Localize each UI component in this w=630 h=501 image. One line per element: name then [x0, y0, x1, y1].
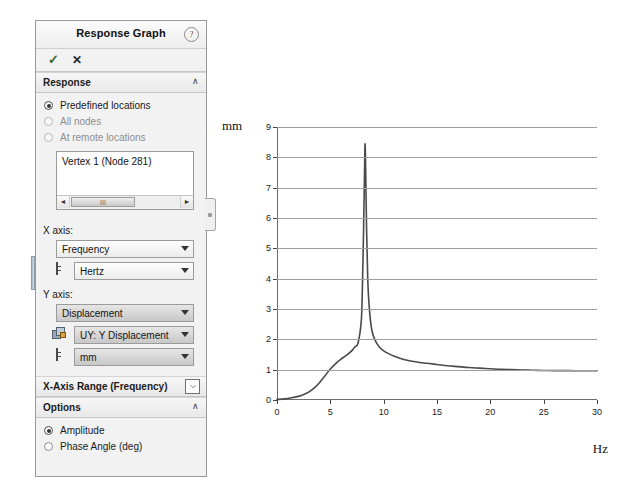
y-tick-mark	[273, 339, 277, 340]
y-tick-mark	[273, 188, 277, 189]
x-tick-label: 15	[432, 407, 442, 417]
y-unit-dropdown[interactable]: mm	[74, 348, 194, 366]
section-header-options[interactable]: Options ∧	[36, 397, 206, 418]
x-tick-label: 5	[328, 407, 333, 417]
radio-label: Predefined locations	[60, 100, 151, 111]
y-tick-label: 9	[266, 122, 271, 132]
y-component-dropdown[interactable]: UY: Y Displacement	[74, 326, 194, 344]
y-tick-mark	[273, 309, 277, 310]
horizontal-scrollbar[interactable]: ◄ III ►	[57, 195, 193, 209]
chevron-down-icon	[181, 332, 189, 337]
y-tick-mark	[273, 370, 277, 371]
y-unit-value: mm	[80, 352, 97, 363]
radio-label: All nodes	[60, 116, 101, 127]
chevron-down-icon	[181, 354, 189, 359]
cancel-button[interactable]: ✕	[68, 52, 86, 68]
y-tick-label: 3	[266, 304, 271, 314]
panel-action-row: ✓ ✕	[36, 49, 206, 72]
y-quantity-dropdown[interactable]: Displacement	[56, 304, 194, 322]
panel-collapse-handle[interactable]	[205, 198, 216, 231]
chevron-up-icon: ∧	[192, 76, 199, 86]
radio-indicator	[44, 426, 53, 435]
label-y-axis: Y axis:	[43, 289, 206, 300]
section-header-x-axis-range[interactable]: X-Axis Range (Frequency) ⌵	[36, 376, 206, 397]
y-quantity-value: Displacement	[62, 308, 123, 319]
x-tick-mark	[597, 400, 598, 404]
section-label-response: Response	[43, 77, 91, 88]
radio-indicator	[44, 133, 53, 142]
chevron-down-box-icon[interactable]: ⌵	[185, 379, 200, 394]
scroll-right-icon[interactable]: ►	[180, 196, 193, 208]
radio-label: Amplitude	[60, 425, 104, 436]
component-icon	[52, 327, 68, 343]
x-unit-dropdown[interactable]: Hertz	[74, 262, 194, 280]
panel-left-edge-strip	[31, 256, 35, 290]
panel-header: Response Graph ?	[36, 21, 206, 49]
x-tick-label: 30	[592, 407, 602, 417]
x-tick-mark	[277, 400, 278, 404]
accept-button[interactable]: ✓	[44, 52, 62, 68]
y-tick-label: 6	[266, 213, 271, 223]
x-tick-label: 0	[274, 407, 279, 417]
y-component-value: UY: Y Displacement	[80, 330, 169, 341]
scrollbar-thumb[interactable]: III	[71, 197, 135, 207]
y-tick-mark	[273, 127, 277, 128]
gridline	[277, 188, 597, 189]
x-quantity-value: Frequency	[62, 244, 109, 255]
chevron-up-icon: ∧	[192, 401, 199, 411]
radio-label: At remote locations	[60, 132, 146, 143]
y-unit-row: mm	[74, 348, 194, 366]
y-tick-mark	[273, 218, 277, 219]
y-tick-mark	[273, 279, 277, 280]
label-x-axis: X axis:	[43, 225, 206, 236]
list-item[interactable]: Vertex 1 (Node 281)	[57, 152, 193, 167]
y-axis-unit-label: mm	[222, 118, 242, 134]
chevron-down-icon	[181, 246, 189, 251]
selection-listbox[interactable]: Vertex 1 (Node 281) ◄ III ►	[56, 151, 194, 210]
y-tick-mark	[273, 248, 277, 249]
y-tick-label: 5	[266, 243, 271, 253]
gridline	[277, 309, 597, 310]
chevron-down-icon	[181, 310, 189, 315]
x-tick-mark	[490, 400, 491, 404]
y-tick-label: 7	[266, 183, 271, 193]
radio-all-nodes[interactable]: All nodes	[36, 114, 206, 130]
response-curve	[277, 127, 597, 400]
radio-indicator	[44, 101, 53, 110]
section-label-options: Options	[43, 402, 81, 413]
y-tick-label: 1	[266, 365, 271, 375]
y-tick-label: 8	[266, 152, 271, 162]
radio-amplitude[interactable]: Amplitude	[36, 423, 206, 439]
radio-indicator	[44, 442, 53, 451]
x-unit-value: Hertz	[80, 266, 104, 277]
unit-icon	[52, 263, 68, 279]
x-quantity-dropdown[interactable]: Frequency	[56, 240, 194, 258]
x-unit-row: Hertz	[74, 262, 194, 280]
gridline	[277, 339, 597, 340]
y-tick-mark	[273, 157, 277, 158]
radio-label: Phase Angle (deg)	[60, 441, 142, 452]
y-component-row: UY: Y Displacement	[74, 326, 194, 344]
y-tick-label: 4	[266, 274, 271, 284]
x-tick-label: 20	[485, 407, 495, 417]
radio-predefined-locations[interactable]: Predefined locations	[36, 98, 206, 114]
gridline	[277, 370, 597, 371]
y-quantity-row: Displacement	[56, 304, 194, 322]
chevron-down-icon	[181, 268, 189, 273]
x-axis-unit-label: Hz	[593, 441, 608, 457]
scroll-left-icon[interactable]: ◄	[57, 196, 70, 208]
gridline	[277, 218, 597, 219]
x-tick-label: 25	[539, 407, 549, 417]
page-title: Response Graph	[36, 27, 206, 39]
y-tick-label: 0	[266, 395, 271, 405]
x-tick-label: 10	[379, 407, 389, 417]
section-header-response[interactable]: Response ∧	[36, 72, 206, 93]
gridline	[277, 157, 597, 158]
unit-icon	[52, 349, 68, 365]
gridline	[277, 248, 597, 249]
response-graph-chart: mm Hz 0123456789051015202530	[220, 110, 620, 465]
section-body-response: Predefined locations All nodes At remote…	[36, 93, 206, 216]
radio-at-remote-locations[interactable]: At remote locations	[36, 130, 206, 146]
radio-phase-angle[interactable]: Phase Angle (deg)	[36, 439, 206, 455]
help-icon[interactable]: ?	[184, 27, 199, 42]
